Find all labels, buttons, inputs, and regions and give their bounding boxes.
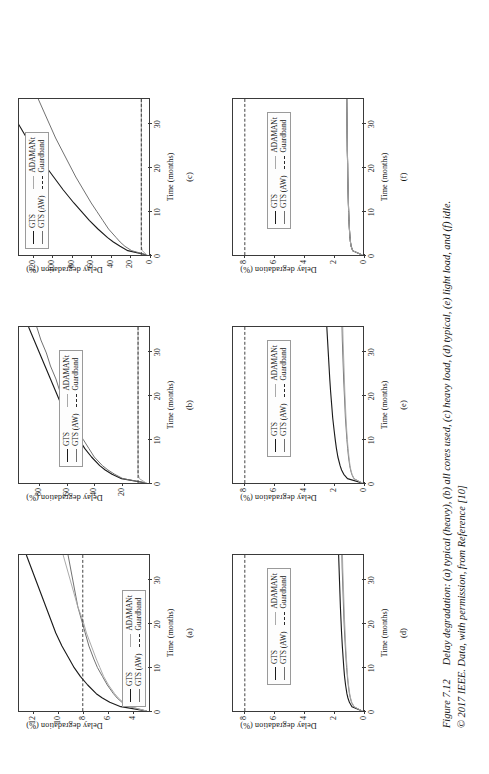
- y-tick-label: 6: [270, 716, 278, 720]
- legend-e: GTSADAMANtGTS (AW)Guardband: [267, 340, 291, 457]
- legend-swatch-adamant-icon: [275, 156, 276, 169]
- y-axis-ticks-f: 02468: [232, 258, 364, 286]
- x-tick-label: 0: [368, 710, 376, 714]
- legend-item-gts: GTS: [271, 176, 279, 224]
- y-tick-label: 40: [107, 260, 115, 268]
- legend-swatch-gts-icon: [275, 439, 276, 452]
- legend-swatch-gts_aw-icon: [284, 211, 285, 224]
- x-tick-mark: [362, 579, 366, 580]
- legend-swatch-gts_aw-icon: [139, 689, 140, 702]
- x-axis-ticks-f: 0102030: [366, 98, 378, 256]
- legend-swatch-adamant-icon: [67, 394, 68, 407]
- x-tick-label: 0: [368, 254, 376, 258]
- legend-label-gts: GTS: [126, 672, 134, 686]
- legend-label-guardband: Guardband: [135, 598, 143, 631]
- plot-curves-f: [233, 99, 363, 255]
- x-tick-mark: [148, 351, 152, 352]
- legend-item-gts_aw: GTS (AW): [280, 632, 288, 680]
- y-axis-ticks-c: 020406080100120: [18, 258, 150, 286]
- x-tick-mark: [362, 255, 366, 256]
- x-tick-mark: [362, 395, 366, 396]
- x-tick-mark: [148, 623, 152, 624]
- x-tick-label: 20: [368, 620, 376, 628]
- panel-label-e: (e): [398, 326, 408, 484]
- x-tick-label: 20: [154, 392, 162, 400]
- panel-label-d: (d): [398, 554, 408, 712]
- legend-label-guardband: Guardband: [280, 576, 288, 609]
- x-tick-label: 10: [368, 664, 376, 672]
- legend-item-adamant: ADAMANt: [63, 355, 71, 406]
- y-tick-label: 6: [270, 260, 278, 264]
- plot-area-f: GTSADAMANtGTS (AW)Guardband: [232, 98, 364, 256]
- x-axis-ticks-e: 0102030: [366, 326, 378, 484]
- legend-item-guardband: Guardband: [38, 137, 46, 188]
- y-tick-label: 2: [330, 716, 338, 720]
- legend-label-gts: GTS: [29, 214, 37, 228]
- chart-panel-c: Delay degradation (%)020406080100120GTSA…: [14, 86, 210, 294]
- x-tick-mark: [148, 483, 152, 484]
- legend-label-gts: GTS: [271, 194, 279, 208]
- series-line-adamant: [138, 327, 146, 483]
- figure-number: Figure 7.12: [441, 679, 452, 728]
- legend-item-gts: GTS: [29, 196, 37, 244]
- legend-label-gts_aw: GTS (AW): [280, 176, 288, 208]
- y-tick-label: 80: [68, 260, 76, 268]
- legend-label-gts_aw: GTS (AW): [38, 196, 46, 228]
- legend-swatch-guardband-icon: [42, 176, 43, 189]
- legend-label-adamant: ADAMANt: [126, 595, 134, 630]
- y-tick-label: 0: [360, 716, 368, 720]
- legend-item-adamant: ADAMANt: [271, 117, 279, 168]
- y-tick-label: 0: [146, 260, 154, 264]
- legend-swatch-adamant-icon: [130, 634, 131, 647]
- plot-curves-b: [19, 327, 149, 483]
- y-tick-label: 10: [54, 716, 62, 724]
- chart-panel-b: Delay degradation (%)20406080GTSADAMANtG…: [14, 314, 210, 522]
- y-tick-label: 4: [300, 488, 308, 492]
- y-tick-label: 40: [90, 488, 98, 496]
- legend-a: GTSADAMANtGTS (AW)Guardband: [122, 590, 146, 707]
- rotated-page-canvas: Delay degradation (%)4681012GTSADAMANtGT…: [0, 0, 489, 774]
- legend-item-gts: GTS: [63, 414, 71, 462]
- legend-b: GTSADAMANtGTS (AW)Guardband: [59, 350, 83, 467]
- legend-swatch-guardband-icon: [284, 156, 285, 169]
- x-tick-mark: [148, 211, 152, 212]
- y-tick-label: 60: [63, 488, 71, 496]
- legend-item-gts: GTS: [271, 404, 279, 452]
- x-axis-title-f: Time (months): [380, 98, 389, 256]
- x-tick-label: 20: [368, 164, 376, 172]
- x-tick-label: 30: [154, 348, 162, 356]
- x-tick-mark: [148, 167, 152, 168]
- series-line-gts: [347, 99, 363, 255]
- y-tick-label: 100: [48, 260, 56, 272]
- y-axis-ticks-d: 02468: [232, 714, 364, 742]
- x-tick-label: 0: [154, 710, 162, 714]
- y-axis-ticks-e: 02468: [232, 486, 364, 514]
- x-tick-mark: [148, 123, 152, 124]
- series-line-adamant: [343, 327, 363, 483]
- legend-item-gts: GTS: [126, 654, 134, 702]
- x-axis-ticks-c: 0102030: [152, 98, 164, 256]
- x-tick-mark: [148, 667, 152, 668]
- caption-text-line2: © 2017 IEEE. Data, with permission, from…: [456, 485, 467, 728]
- series-line-adamant: [141, 99, 147, 255]
- x-tick-label: 30: [368, 120, 376, 128]
- chart-panel-f: Delay degradation (%)02468GTSADAMANtGTS …: [228, 86, 424, 294]
- legend-label-gts_aw: GTS (AW): [280, 404, 288, 436]
- legend-label-gts_aw: GTS (AW): [72, 414, 80, 446]
- x-tick-mark: [362, 123, 366, 124]
- x-tick-mark: [362, 211, 366, 212]
- y-tick-label: 0: [360, 488, 368, 492]
- x-tick-mark: [362, 351, 366, 352]
- x-tick-label: 0: [154, 482, 162, 486]
- x-axis-title-a: Time (months): [166, 554, 175, 712]
- x-axis-title-b: Time (months): [166, 326, 175, 484]
- y-tick-label: 4: [300, 260, 308, 264]
- panel-grid: Delay degradation (%)4681012GTSADAMANtGT…: [8, 96, 428, 756]
- x-tick-label: 10: [154, 436, 162, 444]
- plot-area-e: GTSADAMANtGTS (AW)Guardband: [232, 326, 364, 484]
- legend-item-gts: GTS: [271, 632, 279, 680]
- x-axis-title-d: Time (months): [380, 554, 389, 712]
- legend-d: GTSADAMANtGTS (AW)Guardband: [267, 568, 291, 685]
- figure-7-12: Delay degradation (%)4681012GTSADAMANtGT…: [0, 0, 489, 774]
- legend-swatch-adamant-icon: [33, 176, 34, 189]
